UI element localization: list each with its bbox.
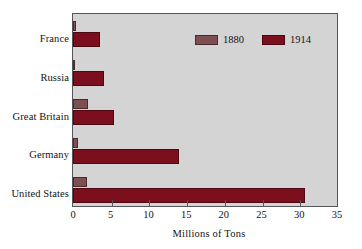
x-tick-label-25: 25 (256, 209, 267, 221)
plot-area: 1880 1914 (72, 13, 338, 207)
x-tick-label-5: 5 (108, 209, 113, 221)
x-axis-tick-labels: 05101520253035 (0, 209, 362, 225)
y-axis-label-germany: Germany (0, 149, 69, 160)
y-axis-label-united-states: United States (0, 188, 69, 199)
x-tick-mark-25 (263, 200, 264, 206)
x-tick-label-20: 20 (219, 209, 230, 221)
x-tick-label-0: 0 (70, 209, 75, 221)
x-tick-label-35: 35 (332, 209, 343, 221)
x-tick-label-10: 10 (143, 209, 154, 221)
x-tick-mark-30 (300, 200, 301, 206)
x-tick-label-30: 30 (294, 209, 305, 221)
x-axis-title-text: Millions of Tons (173, 228, 246, 239)
x-tick-label-15: 15 (181, 209, 192, 221)
x-tick-mark-20 (225, 200, 226, 206)
y-axis-label-russia: Russia (0, 72, 69, 83)
y-axis-category-labels: France Russia Great Britain Germany Unit… (0, 13, 69, 207)
x-tick-mark-15 (187, 200, 188, 206)
x-tick-mark-5 (112, 200, 113, 206)
x-axis-tick-marks (73, 14, 337, 206)
x-tick-mark-10 (149, 200, 150, 206)
y-axis-label-france: France (0, 33, 69, 44)
y-axis-label-great-britain: Great Britain (0, 111, 69, 122)
x-axis-title: Millions of Tons (0, 228, 362, 239)
bar-chart: France Russia Great Britain Germany Unit… (0, 0, 362, 249)
